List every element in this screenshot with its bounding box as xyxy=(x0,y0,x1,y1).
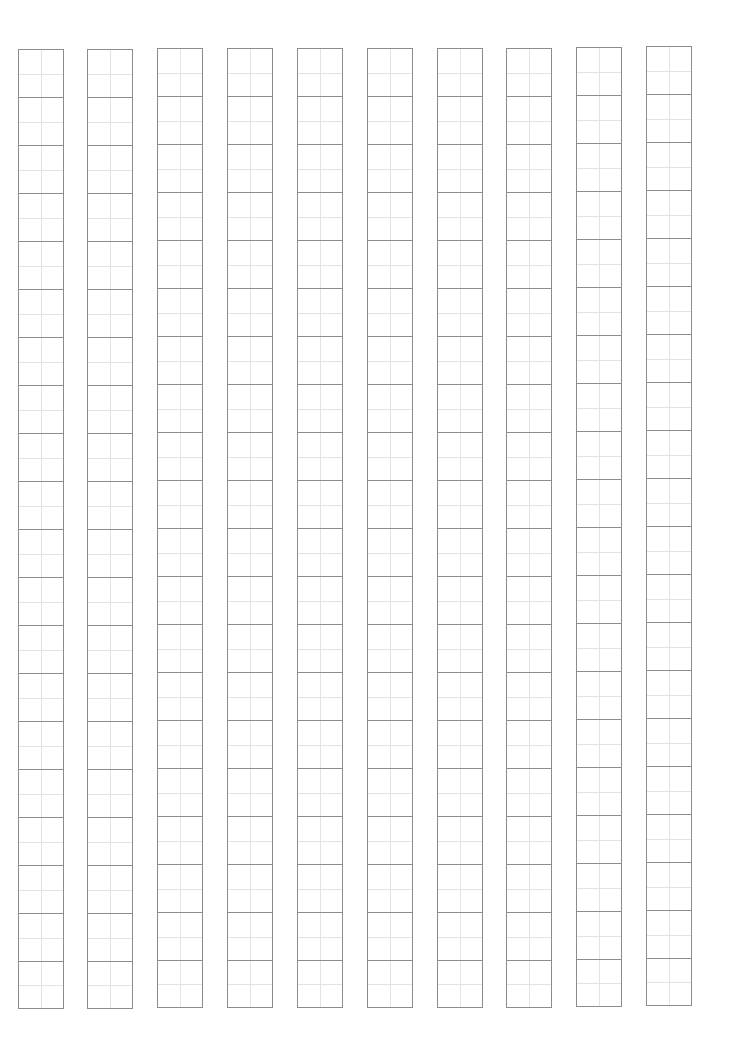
grid-cell xyxy=(577,911,621,959)
grid-cell xyxy=(88,721,132,769)
horizontal-guide-line xyxy=(507,457,551,458)
horizontal-guide-line xyxy=(438,553,482,554)
grid-cell xyxy=(577,959,621,1007)
grid-cell xyxy=(647,478,691,526)
grid-cell xyxy=(88,145,132,193)
grid-cell xyxy=(19,529,63,577)
horizontal-guide-line xyxy=(298,697,342,698)
horizontal-guide-line xyxy=(368,505,412,506)
grid-cell xyxy=(158,576,202,624)
grid-cell xyxy=(228,288,272,336)
grid-cell xyxy=(19,913,63,961)
grid-cell xyxy=(19,433,63,481)
horizontal-guide-line xyxy=(158,313,202,314)
grid-cell xyxy=(507,336,551,384)
grid-cell xyxy=(88,241,132,289)
grid-cell xyxy=(298,48,342,96)
horizontal-guide-line xyxy=(88,266,132,267)
grid-cell xyxy=(158,816,202,864)
grid-cell xyxy=(88,769,132,817)
grid-cell xyxy=(438,720,482,768)
horizontal-guide-line xyxy=(228,889,272,890)
horizontal-guide-line xyxy=(298,793,342,794)
grid-cell xyxy=(507,480,551,528)
grid-cell xyxy=(438,240,482,288)
grid-cell xyxy=(158,384,202,432)
horizontal-guide-line xyxy=(88,746,132,747)
grid-cell xyxy=(507,960,551,1008)
horizontal-guide-line xyxy=(438,217,482,218)
grid-column-1 xyxy=(18,49,64,1009)
horizontal-guide-line xyxy=(577,504,621,505)
horizontal-guide-line xyxy=(88,890,132,891)
grid-cell xyxy=(368,336,412,384)
horizontal-guide-line xyxy=(228,121,272,122)
grid-cell xyxy=(88,481,132,529)
grid-cell xyxy=(368,720,412,768)
grid-cell xyxy=(19,385,63,433)
horizontal-guide-line xyxy=(19,602,63,603)
grid-cell xyxy=(88,817,132,865)
grid-cell xyxy=(368,912,412,960)
grid-cell xyxy=(368,240,412,288)
horizontal-guide-line xyxy=(438,889,482,890)
horizontal-guide-line xyxy=(368,361,412,362)
grid-cell xyxy=(647,862,691,910)
horizontal-guide-line xyxy=(507,697,551,698)
grid-cell xyxy=(88,193,132,241)
horizontal-guide-line xyxy=(298,169,342,170)
horizontal-guide-line xyxy=(298,409,342,410)
horizontal-guide-line xyxy=(19,794,63,795)
grid-cell xyxy=(158,96,202,144)
grid-cell xyxy=(228,576,272,624)
grid-cell xyxy=(368,864,412,912)
horizontal-guide-line xyxy=(158,409,202,410)
grid-cell xyxy=(228,816,272,864)
horizontal-guide-line xyxy=(438,697,482,698)
grid-cell xyxy=(368,672,412,720)
horizontal-guide-line xyxy=(507,73,551,74)
horizontal-guide-line xyxy=(507,409,551,410)
grid-column-5 xyxy=(297,48,343,1008)
grid-cell xyxy=(228,48,272,96)
grid-cell xyxy=(577,335,621,383)
grid-cell xyxy=(438,336,482,384)
grid-cell xyxy=(368,768,412,816)
horizontal-guide-line xyxy=(298,73,342,74)
horizontal-guide-line xyxy=(228,841,272,842)
grid-cell xyxy=(298,672,342,720)
horizontal-guide-line xyxy=(298,265,342,266)
grid-cell xyxy=(438,528,482,576)
grid-cell xyxy=(577,95,621,143)
horizontal-guide-line xyxy=(507,265,551,266)
grid-cell xyxy=(158,624,202,672)
horizontal-guide-line xyxy=(507,649,551,650)
horizontal-guide-line xyxy=(88,458,132,459)
grid-cell xyxy=(228,768,272,816)
horizontal-guide-line xyxy=(158,121,202,122)
horizontal-guide-line xyxy=(647,599,691,600)
grid-cell xyxy=(158,240,202,288)
horizontal-guide-line xyxy=(88,74,132,75)
horizontal-guide-line xyxy=(88,698,132,699)
horizontal-guide-line xyxy=(158,697,202,698)
horizontal-guide-line xyxy=(507,601,551,602)
horizontal-guide-line xyxy=(438,409,482,410)
horizontal-guide-line xyxy=(88,314,132,315)
grid-paper-sheet xyxy=(0,0,736,1057)
horizontal-guide-line xyxy=(158,601,202,602)
grid-cell xyxy=(158,864,202,912)
horizontal-guide-line xyxy=(19,74,63,75)
horizontal-guide-line xyxy=(158,889,202,890)
horizontal-guide-line xyxy=(368,169,412,170)
grid-cell xyxy=(88,529,132,577)
horizontal-guide-line xyxy=(228,937,272,938)
grid-cell xyxy=(228,624,272,672)
horizontal-guide-line xyxy=(88,794,132,795)
grid-cell xyxy=(298,144,342,192)
horizontal-guide-line xyxy=(19,938,63,939)
horizontal-guide-line xyxy=(577,360,621,361)
grid-cell xyxy=(298,240,342,288)
grid-cell xyxy=(507,576,551,624)
grid-cell xyxy=(368,816,412,864)
